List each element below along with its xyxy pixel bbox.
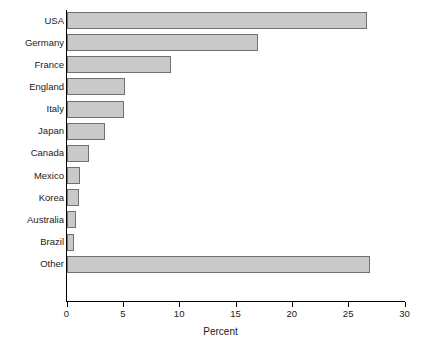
category-label-mexico: Mexico: [34, 170, 64, 182]
x-tick-10: [179, 302, 180, 307]
x-axis-title: Percent: [0, 326, 427, 338]
x-tick-label-25: 25: [343, 308, 354, 320]
bar-japan: [67, 123, 105, 140]
bar-korea: [67, 189, 79, 206]
x-tick-label-20: 20: [287, 308, 298, 320]
category-label-australia: Australia: [27, 214, 64, 226]
x-tick-label-15: 15: [230, 308, 241, 320]
x-tick-label-0: 0: [64, 308, 69, 320]
x-tick-label-30: 30: [399, 308, 410, 320]
bar-france: [67, 56, 172, 73]
category-label-korea: Korea: [39, 192, 64, 204]
bar-germany: [67, 34, 259, 51]
x-tick-25: [348, 302, 349, 307]
category-label-usa: USA: [44, 15, 64, 27]
category-label-japan: Japan: [38, 125, 64, 137]
x-tick-15: [236, 302, 237, 307]
category-label-other: Other: [40, 258, 64, 270]
bar-australia: [67, 211, 76, 228]
x-tick-label-10: 10: [174, 308, 185, 320]
x-axis-title-text: Percent: [203, 326, 237, 337]
plot-area: USAGermanyFranceEnglandItalyJapanCanadaM…: [0, 0, 427, 350]
bar-chart: USAGermanyFranceEnglandItalyJapanCanadaM…: [0, 0, 427, 350]
x-tick-5: [123, 302, 124, 307]
bar-brazil: [67, 234, 75, 251]
x-tick-30: [405, 302, 406, 307]
category-label-canada: Canada: [31, 147, 64, 159]
category-label-england: England: [29, 81, 64, 93]
category-label-brazil: Brazil: [40, 236, 64, 248]
bar-usa: [67, 12, 368, 29]
x-tick-0: [67, 302, 68, 307]
bar-other: [67, 256, 370, 273]
category-label-germany: Germany: [25, 37, 64, 49]
category-label-italy: Italy: [47, 103, 64, 115]
bar-italy: [67, 101, 124, 118]
bar-mexico: [67, 167, 81, 184]
x-tick-20: [292, 302, 293, 307]
x-tick-label-5: 5: [120, 308, 125, 320]
bar-england: [67, 78, 126, 95]
category-label-france: France: [34, 59, 64, 71]
bar-canada: [67, 145, 90, 162]
